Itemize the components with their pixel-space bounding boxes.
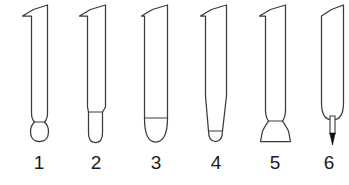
item-label-4: 4 xyxy=(201,152,231,174)
item-label-6: 6 xyxy=(314,152,344,174)
shape-4-outline xyxy=(201,5,227,142)
item-label-2: 2 xyxy=(81,152,111,174)
shape-1-ball-tip xyxy=(23,5,49,142)
shape-6-needle-shaft xyxy=(330,116,335,134)
shape-3-outline xyxy=(142,5,168,142)
shape-2-outline xyxy=(80,5,106,143)
shape-2-narrow-round-tip xyxy=(80,5,106,143)
item-label-5: 5 xyxy=(260,152,290,174)
shape-4-tapered-round-tip xyxy=(201,5,227,142)
figure-container: 1 2 3 4 5 6 xyxy=(0,0,349,185)
shape-6-needle-point-icon xyxy=(330,133,335,145)
item-label-3: 3 xyxy=(141,152,171,174)
shape-3-full-round-tip xyxy=(142,5,168,142)
item-label-1: 1 xyxy=(24,152,54,174)
shape-6-needle-point xyxy=(322,5,344,145)
shape-5-flared-base xyxy=(260,5,291,142)
shape-1-outline xyxy=(23,5,49,142)
shape-6-outline xyxy=(322,5,344,120)
